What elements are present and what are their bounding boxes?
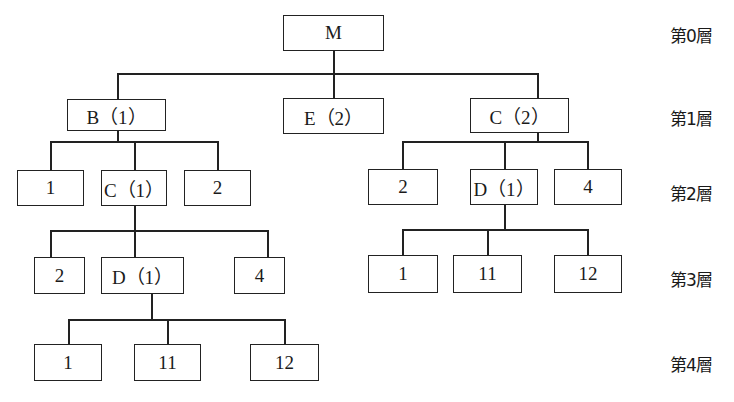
level-label-0: 第0層	[670, 22, 712, 47]
connector	[587, 229, 589, 255]
node-c-d1: D（1）	[470, 169, 538, 205]
connector	[68, 319, 70, 344]
connector	[50, 230, 268, 232]
node-b-2: 2	[184, 170, 251, 206]
node-c2: C（2）	[470, 98, 569, 133]
connector	[504, 205, 506, 230]
level-label-4: 第4層	[670, 351, 712, 376]
node-e: E（2）	[283, 98, 384, 134]
connector	[151, 294, 153, 320]
level-label-3: 第3層	[670, 266, 712, 291]
connector	[117, 73, 119, 99]
node-cd-12: 12	[554, 255, 622, 293]
node-bcd-1: 1	[34, 344, 102, 381]
connector	[68, 319, 285, 321]
connector	[402, 229, 588, 231]
connector	[167, 319, 169, 344]
connector	[402, 141, 588, 143]
connector	[284, 319, 286, 344]
node-bc-2: 2	[34, 257, 85, 294]
node-b-1: 1	[17, 170, 84, 206]
node-b-c1: C（1）	[101, 170, 167, 206]
level-label-1: 第1層	[670, 105, 712, 130]
connector	[402, 229, 404, 255]
node-bc-4: 4	[234, 257, 285, 294]
connector	[117, 73, 538, 75]
node-c-4: 4	[554, 169, 622, 205]
node-c-2: 2	[368, 169, 438, 205]
node-bcd-12: 12	[250, 344, 319, 381]
connector	[134, 206, 136, 231]
level-label-2: 第2層	[670, 180, 712, 205]
node-bc-d1: D（1）	[101, 257, 184, 294]
connector	[217, 141, 219, 170]
figure-caption	[280, 394, 480, 402]
connector	[487, 229, 489, 255]
connector	[50, 141, 52, 170]
connector	[267, 230, 269, 257]
node-cd-11: 11	[453, 255, 522, 293]
node-bcd-11: 11	[134, 344, 201, 381]
node-m: M	[283, 15, 384, 51]
connector	[537, 73, 539, 99]
connector	[134, 141, 136, 170]
node-b: B（1）	[67, 99, 166, 131]
connector	[402, 141, 404, 169]
connector	[134, 230, 136, 257]
connector	[50, 230, 52, 257]
connector	[587, 141, 589, 169]
connector	[504, 141, 506, 169]
node-cd-1: 1	[368, 255, 438, 293]
